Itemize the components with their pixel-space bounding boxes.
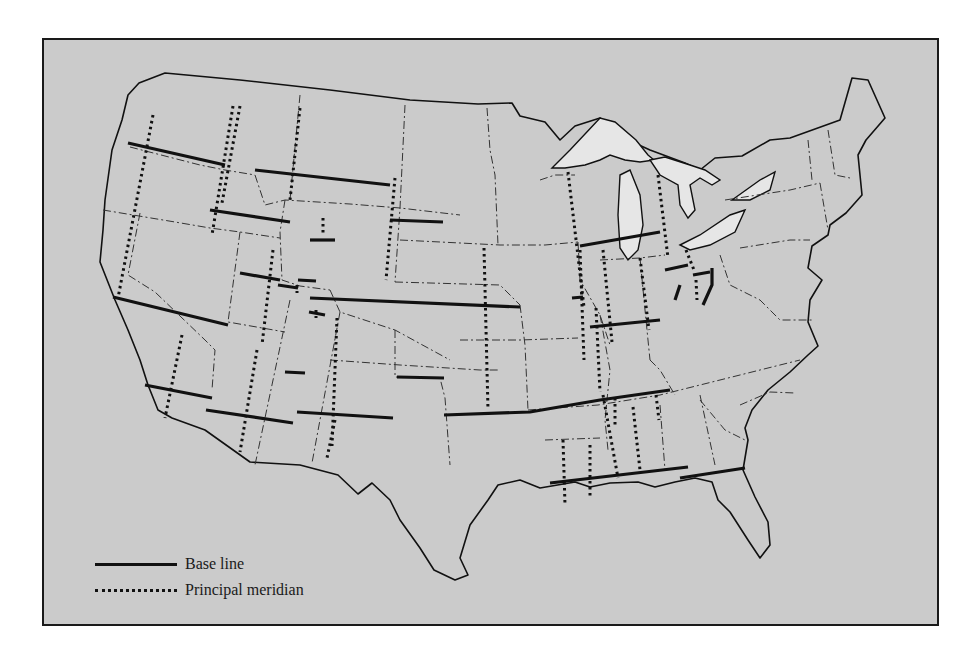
dotted-line-icon xyxy=(95,589,177,592)
solid-line-icon xyxy=(95,563,177,566)
us-outline xyxy=(100,73,885,580)
legend-label: Principal meridian xyxy=(185,581,304,599)
base-line xyxy=(572,297,583,298)
base-line xyxy=(298,280,316,281)
legend: Base line Principal meridian xyxy=(95,551,304,603)
legend-item-principal-meridian: Principal meridian xyxy=(95,577,304,603)
legend-item-base-line: Base line xyxy=(95,551,304,577)
legend-label: Base line xyxy=(185,555,244,573)
base-line xyxy=(390,220,443,222)
base-line xyxy=(285,372,305,373)
base-line xyxy=(397,377,444,378)
